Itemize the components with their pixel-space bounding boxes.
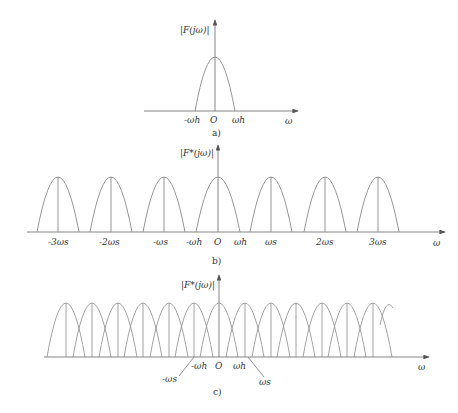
tick-neg-wh: -ωh: [184, 115, 200, 125]
leader-ws: [248, 357, 264, 377]
tick-wh: ωh: [234, 237, 247, 247]
tick-2ws: 2ωs: [315, 237, 334, 247]
tick-neg-wh: -ωh: [186, 237, 202, 247]
panel-b: |F*(jω)| -3ωs -2ωs -ωs -ωh O ωh ωs 2ωs 3…: [27, 145, 445, 266]
y-axis-label: |F(jω)|: [180, 25, 209, 36]
tick-neg-wh: -ωh: [191, 361, 207, 371]
caption-c: c): [213, 387, 222, 397]
y-axis-label: |F*(jω)|: [181, 280, 215, 291]
tick-neg-ws: -ωs: [162, 374, 177, 384]
tick-3ws: 3ωs: [369, 237, 387, 247]
sampling-spectrum-diagram: |F(jω)| -ωh O ωh ω a) |F*(jω)| -3ωs -2ωs…: [0, 0, 458, 413]
tick-wh: ωh: [232, 115, 245, 125]
tick-wh: ωh: [233, 361, 246, 371]
tick-neg-ws: -ωs: [153, 237, 168, 247]
tick-ws: ωs: [265, 237, 277, 247]
caption-b: b): [212, 256, 221, 266]
x-axis-label: ω: [418, 362, 426, 372]
y-axis-label: |F*(jω)|: [180, 148, 214, 159]
tick-origin: O: [210, 115, 218, 125]
tick-neg-2ws: -2ωs: [99, 237, 120, 247]
tick-origin: O: [215, 361, 223, 371]
tick-ws: ωs: [259, 377, 271, 387]
panel-a: |F(jω)| -ωh O ωh ω a): [144, 20, 298, 138]
tick-origin: O: [214, 237, 222, 247]
overlapping-replicas: [47, 303, 393, 357]
caption-a: a): [212, 128, 221, 138]
tick-neg-3ws: -3ωs: [48, 237, 69, 247]
x-axis-label: ω: [285, 116, 293, 126]
panel-c: |F*(jω)| -ωs -ωh O ωh ωs ω c): [44, 275, 429, 397]
x-axis-label: ω: [433, 238, 441, 248]
